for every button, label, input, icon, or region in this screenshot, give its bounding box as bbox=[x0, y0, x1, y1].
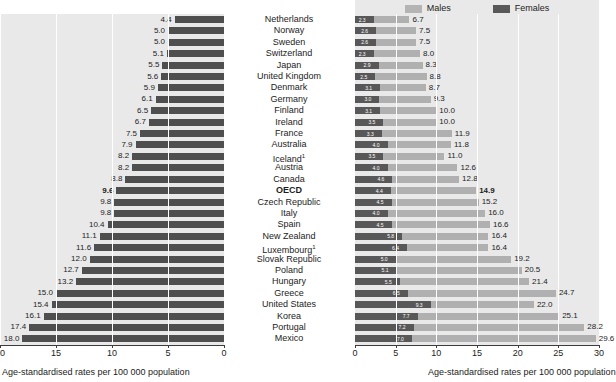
country-label: Austria bbox=[224, 162, 354, 173]
bar-total bbox=[94, 244, 224, 251]
axis-title-by-sex: Age-standardised rates per 100 000 popul… bbox=[428, 367, 616, 377]
gridline-total bbox=[0, 14, 1, 345]
bar-value-females: 3.0 bbox=[364, 95, 371, 103]
legend-swatch-females-icon bbox=[493, 5, 510, 13]
bar-value-total: 7.9 bbox=[121, 139, 135, 150]
bar-total bbox=[167, 50, 224, 57]
bar-total bbox=[162, 62, 224, 69]
footnote-marker: 1 bbox=[312, 244, 315, 250]
bar-females bbox=[355, 256, 396, 263]
country-label: Japan bbox=[224, 60, 354, 71]
legend-swatch-males-icon bbox=[405, 5, 422, 13]
axis-tick-label: 10 bbox=[107, 348, 117, 358]
footnote-marker: 1 bbox=[302, 153, 305, 159]
bar-value-males: 16.4 bbox=[488, 230, 507, 241]
country-label: Poland bbox=[224, 265, 354, 276]
bar-value-total: 16.1 bbox=[25, 310, 44, 321]
bar-total bbox=[114, 210, 224, 217]
bar-value-total: 10.4 bbox=[89, 219, 108, 230]
axis-tick-label: 0 bbox=[221, 348, 226, 358]
bar-value-females: 5.5 bbox=[385, 278, 392, 286]
bar-value-males: 19.2 bbox=[511, 253, 530, 264]
bar-females bbox=[355, 221, 392, 228]
bar-value-total: 5.5 bbox=[148, 59, 162, 70]
bar-value-total: 6.5 bbox=[137, 105, 151, 116]
panel-by-sex: 2.36.72.67.52.67.52.38.02.98.32.58.83.18… bbox=[355, 14, 599, 345]
bar-value-females: 2.6 bbox=[361, 38, 368, 46]
bar-value-females: 7.0 bbox=[397, 335, 404, 343]
bar-total bbox=[56, 290, 224, 297]
bar-value-males: 9.3 bbox=[431, 93, 445, 104]
bar-value-males: 20.5 bbox=[522, 264, 541, 275]
country-label: Switzerland bbox=[224, 48, 354, 59]
bar-total bbox=[168, 27, 224, 34]
bar-value-females: 4.5 bbox=[377, 198, 384, 206]
bar-total bbox=[151, 107, 224, 114]
bar-total bbox=[140, 130, 224, 137]
bar-value-females: 7.2 bbox=[399, 323, 406, 331]
bar-value-females: 3.5 bbox=[368, 152, 375, 160]
bar-value-males: 8.3 bbox=[423, 59, 437, 70]
bar-value-females: 4.0 bbox=[373, 209, 380, 217]
country-label: Czech Republic bbox=[224, 197, 354, 208]
panel-country-labels: NetherlandsNorwaySwedenSwitzerlandJapanU… bbox=[224, 14, 354, 345]
bar-value-females: 2.3 bbox=[359, 50, 366, 58]
bar-value-total: 6.1 bbox=[142, 93, 156, 104]
bar-total bbox=[175, 16, 224, 23]
bar-females bbox=[355, 187, 391, 194]
legend-label-females: Females bbox=[515, 4, 550, 13]
bar-value-males: 15.2 bbox=[479, 196, 498, 207]
bar-total bbox=[132, 164, 224, 171]
bar-value-males: 11.9 bbox=[452, 128, 470, 139]
axis-tick-label: 5 bbox=[165, 348, 170, 358]
bar-value-females: 2.6 bbox=[361, 27, 368, 35]
bar-value-males: 12.8 bbox=[459, 173, 478, 184]
bar-value-total: 12.7 bbox=[63, 264, 82, 275]
bar-value-males: 10.0 bbox=[436, 105, 455, 116]
bar-value-total: 12.0 bbox=[71, 253, 90, 264]
country-label: Hungary bbox=[224, 276, 354, 287]
bar-total bbox=[44, 313, 224, 320]
axis-tick-label: 5 bbox=[393, 348, 398, 358]
country-label: Ireland bbox=[224, 117, 354, 128]
bar-females bbox=[355, 176, 392, 183]
bar-value-females: 9.3 bbox=[416, 301, 423, 309]
axis-tick-label: 25 bbox=[553, 348, 563, 358]
bar-total bbox=[52, 301, 224, 308]
bar-value-females: 4.4 bbox=[376, 187, 383, 195]
axis-tick-label: 20 bbox=[513, 348, 523, 358]
country-label: OECD bbox=[224, 185, 354, 196]
bar-value-males: 16.6 bbox=[490, 219, 509, 230]
bar-value-females: 2.9 bbox=[364, 61, 371, 69]
bar-value-total: 15.0 bbox=[37, 287, 56, 298]
country-label: New Zealand bbox=[224, 231, 354, 242]
gridline-by-sex bbox=[436, 14, 437, 345]
legend-item-males: Males bbox=[405, 4, 451, 13]
bar-value-males: 25.1 bbox=[559, 310, 578, 321]
country-label: Luxembourg1 bbox=[224, 242, 354, 253]
country-label: United Kingdom bbox=[224, 71, 354, 82]
bar-value-males: 6.7 bbox=[409, 14, 423, 25]
bar-value-females: 2.5 bbox=[360, 73, 367, 81]
bar-females bbox=[355, 141, 388, 148]
axis-total: 20151050 bbox=[0, 345, 224, 355]
gridline-total bbox=[168, 14, 169, 345]
bar-value-total: 8.2 bbox=[118, 150, 132, 161]
bar-total bbox=[76, 278, 224, 285]
bar-females bbox=[355, 244, 407, 251]
bar-value-males: 16.0 bbox=[485, 207, 504, 218]
country-label: Netherlands bbox=[224, 14, 354, 25]
bar-value-total: 13.2 bbox=[58, 276, 77, 287]
bar-total bbox=[125, 176, 224, 183]
bar-value-females: 4.0 bbox=[373, 141, 380, 149]
country-label: Korea bbox=[224, 311, 354, 322]
country-label: Italy bbox=[224, 208, 354, 219]
country-label: Portugal bbox=[224, 322, 354, 333]
legend-label-males: Males bbox=[427, 4, 451, 13]
country-label: Spain bbox=[224, 219, 354, 230]
axis-tick-label: 30 bbox=[594, 348, 604, 358]
bar-value-total: 11.1 bbox=[82, 230, 100, 241]
bar-value-total: 7.5 bbox=[126, 128, 140, 139]
axis-tick-label: 20 bbox=[0, 348, 5, 358]
